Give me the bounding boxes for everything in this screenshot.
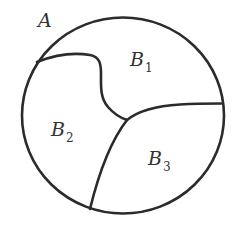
boundary-b2-b3	[90, 120, 127, 209]
boundary-b1-b2	[37, 54, 127, 120]
label-set-a: A	[36, 9, 52, 31]
label-region-b2: B2	[50, 118, 74, 145]
label-region-b1: B1	[129, 48, 153, 75]
set-a-boundary	[22, 18, 224, 214]
label-region-b3-subscript: 3	[163, 160, 171, 174]
label-region-b1-subscript: 1	[145, 61, 153, 75]
boundary-b1-b3	[127, 104, 221, 121]
partition-diagram: A B1 B2 B3	[0, 0, 236, 229]
label-region-b2-subscript: 2	[66, 131, 74, 145]
label-region-b3: B3	[147, 147, 171, 174]
